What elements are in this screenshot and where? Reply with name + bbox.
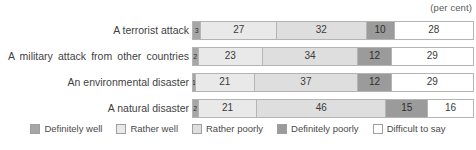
segment-value: 3 xyxy=(195,27,199,34)
unit-note: (per cent) xyxy=(430,2,472,13)
segment-value: 29 xyxy=(427,77,438,87)
chart-legend: Definitely wellRather wellRather poorlyD… xyxy=(0,124,476,134)
bar-segment: 34 xyxy=(263,48,358,65)
segment-value: 16 xyxy=(445,103,456,113)
chart-row: A military attack from other countries22… xyxy=(0,43,476,69)
stacked-bar: 327321028 xyxy=(192,21,474,40)
stacked-bar: 221461516 xyxy=(192,99,474,118)
legend-item[interactable]: Definitely well xyxy=(30,124,102,134)
legend-label: Definitely well xyxy=(44,124,102,134)
bar-segment: 27 xyxy=(201,22,277,39)
legend-swatch-icon xyxy=(192,124,202,134)
segment-value: 27 xyxy=(233,25,244,35)
bar-segment: 12 xyxy=(358,74,392,91)
legend-swatch-icon xyxy=(116,124,126,134)
legend-label: Definitely poorly xyxy=(291,124,359,134)
segment-value: 34 xyxy=(305,51,316,61)
bar-segment: 21 xyxy=(199,100,258,117)
segment-value: 10 xyxy=(375,25,386,35)
segment-value: 21 xyxy=(219,77,230,87)
bar-segment: 29 xyxy=(392,74,473,91)
bar-segment: 21 xyxy=(196,74,255,91)
bar-segment: 3 xyxy=(193,22,201,39)
category-label: An environmental disaster xyxy=(0,77,192,88)
bar-segment: 10 xyxy=(367,22,395,39)
segment-value: 23 xyxy=(225,51,236,61)
category-label: A military attack from other countries xyxy=(0,51,192,62)
legend-label: Rather well xyxy=(130,124,178,134)
bar-segment: 37 xyxy=(255,74,359,91)
legend-label: Difficult to say xyxy=(387,124,446,134)
legend-item[interactable]: Rather well xyxy=(116,124,178,134)
bar-segment: 29 xyxy=(392,48,473,65)
segment-value: 15 xyxy=(401,103,412,113)
segment-value: 12 xyxy=(369,51,380,61)
legend-item[interactable]: Difficult to say xyxy=(373,124,446,134)
segment-value: 32 xyxy=(316,25,327,35)
legend-item[interactable]: Definitely poorly xyxy=(277,124,359,134)
bar-segment: 46 xyxy=(257,100,386,117)
segment-value: 12 xyxy=(369,77,380,87)
stacked-bar-chart: (per cent) A terrorist attack327321028A … xyxy=(0,0,476,150)
segment-value: 37 xyxy=(300,77,311,87)
chart-row: A terrorist attack327321028 xyxy=(0,17,476,43)
segment-value: 2 xyxy=(193,105,197,112)
bar-segment: 23 xyxy=(199,48,263,65)
segment-value: 21 xyxy=(222,103,233,113)
legend-swatch-icon xyxy=(30,124,40,134)
bar-segment: 28 xyxy=(395,22,473,39)
bar-segment: 12 xyxy=(358,48,392,65)
segment-value: 28 xyxy=(428,25,439,35)
legend-label: Rather poorly xyxy=(206,124,263,134)
legend-item[interactable]: Rather poorly xyxy=(192,124,263,134)
stacked-bar: 121371229 xyxy=(192,73,474,92)
chart-row: A natural disaster221461516 xyxy=(0,95,476,121)
bar-segment: 15 xyxy=(386,100,428,117)
category-label: A terrorist attack xyxy=(0,25,192,36)
bar-segment: 32 xyxy=(277,22,367,39)
stacked-bar: 223341229 xyxy=(192,47,474,66)
bar-segment: 16 xyxy=(428,100,473,117)
segment-value: 29 xyxy=(427,51,438,61)
plot-area: A terrorist attack327321028A military at… xyxy=(0,17,476,121)
category-label: A natural disaster xyxy=(0,103,192,114)
segment-value: 2 xyxy=(193,53,197,60)
segment-value: 46 xyxy=(316,103,327,113)
legend-swatch-icon xyxy=(373,124,383,134)
legend-swatch-icon xyxy=(277,124,287,134)
chart-row: An environmental disaster121371229 xyxy=(0,69,476,95)
